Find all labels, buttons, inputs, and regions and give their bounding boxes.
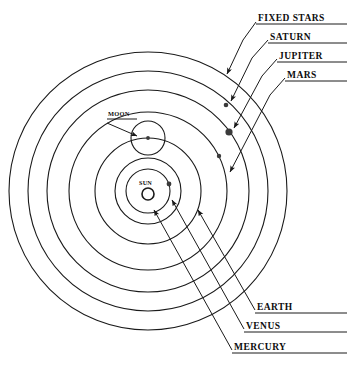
mercury-body-dot bbox=[167, 182, 172, 187]
leader-line-fixed-stars bbox=[227, 22, 256, 74]
sun-disc bbox=[142, 188, 154, 200]
mars-body-dot bbox=[217, 154, 221, 158]
moon-system bbox=[131, 121, 165, 155]
label-mercury: MERCURY bbox=[234, 343, 286, 353]
earth-body-dot bbox=[146, 136, 150, 140]
jupiter-body-dot bbox=[225, 128, 232, 135]
label-mars: MARS bbox=[287, 71, 317, 81]
leader-line-saturn bbox=[231, 40, 268, 101]
label-jupiter: JUPITER bbox=[279, 52, 323, 62]
leader-line-venus bbox=[172, 200, 244, 329]
leader-line-moon bbox=[107, 123, 137, 136]
leader-line-jupiter bbox=[234, 59, 277, 128]
leader-line-mars bbox=[230, 78, 285, 172]
label-saturn: SATURN bbox=[270, 33, 311, 43]
label-sun: SUN bbox=[139, 180, 152, 186]
label-fixed-stars: FIXED STARS bbox=[258, 14, 325, 24]
leader-lines-top bbox=[227, 22, 285, 172]
sun-group bbox=[142, 188, 154, 200]
label-moon: MOON bbox=[108, 111, 130, 117]
label-earth: EARTH bbox=[257, 303, 293, 313]
orbit-diagram: FIXED STARS SATURN JUPITER MARS EARTH VE… bbox=[0, 0, 347, 372]
label-venus: VENUS bbox=[246, 322, 280, 332]
saturn-body-dot bbox=[224, 103, 229, 108]
